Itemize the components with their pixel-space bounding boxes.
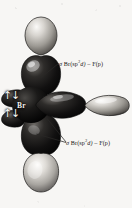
callout-equatorial-donor-tail: d) <box>87 139 92 146</box>
callout-equatorial-bond: σ Br(sp3d) – F(p) <box>66 139 110 146</box>
lone-pair-upper-icon: ↑↓ <box>3 90 19 101</box>
callout-equatorial-dash: – <box>94 139 97 146</box>
orbital-lobe-right-distal <box>85 95 129 115</box>
callout-axial-donor-tail: d) <box>80 60 85 67</box>
orbital-lobe-bottom-distal <box>23 153 58 192</box>
lone-pair-lower-icon: ↑↓ <box>3 108 19 119</box>
callout-equatorial-sigma: σ <box>66 139 69 146</box>
callout-axial-sigma: σ <box>59 60 62 67</box>
callout-axial-acceptor: F(p) <box>92 60 103 67</box>
callout-equatorial-donor: Br(sp <box>71 139 85 146</box>
orbital-diagram-figure: σ Br(sp3d) – F(p) σ Br(sp3d) – F(p) Br ↑… <box>0 0 132 208</box>
callout-axial-bond: σ Br(sp3d) – F(p) <box>59 60 103 67</box>
callout-axial-dash: – <box>87 60 90 67</box>
callout-axial-donor: Br(sp <box>64 60 78 67</box>
callout-equatorial-acceptor: F(p) <box>99 139 110 146</box>
orbital-lobe-top-distal <box>25 17 57 55</box>
